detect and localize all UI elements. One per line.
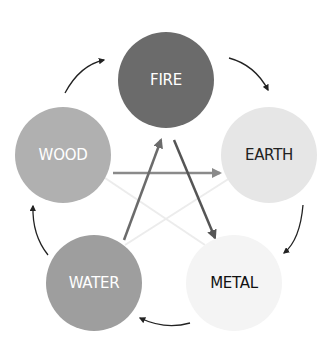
arrow-fire-to-metal [174, 140, 215, 238]
faint-line-wood-metal [105, 178, 205, 245]
arrow-water-to-wood [33, 206, 48, 255]
node-label-wood: WOOD [39, 146, 88, 164]
node-metal: METAL [186, 235, 282, 331]
node-water: WATER [46, 235, 142, 331]
node-label-fire: FIRE [150, 71, 182, 89]
node-earth: EARTH [221, 107, 317, 203]
node-fire: FIRE [118, 32, 214, 128]
arrow-earth-to-metal [284, 205, 303, 253]
node-label-water: WATER [69, 274, 120, 292]
arrow-fire-to-earth [229, 58, 268, 90]
node-label-earth: EARTH [245, 146, 293, 164]
arrow-metal-to-water [140, 318, 190, 326]
arrow-wood-to-fire [65, 60, 104, 93]
node-wood: WOOD [15, 107, 111, 203]
node-label-metal: METAL [210, 274, 258, 292]
